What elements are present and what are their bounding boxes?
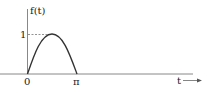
y-axis-label: f(t) (30, 6, 46, 16)
x-tick-pi: π (73, 77, 80, 87)
sine-curve (28, 34, 78, 74)
x-tick-0: 0 (24, 77, 30, 87)
x-axis-label: t (177, 76, 181, 86)
y-tick-1: 1 (20, 30, 26, 40)
t-arrow-head-icon (197, 79, 202, 83)
